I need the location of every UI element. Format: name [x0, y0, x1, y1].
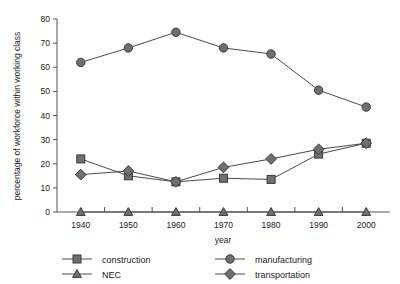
y-tick-label: 20 [41, 159, 51, 169]
marker-circle [172, 28, 180, 36]
marker-circle [226, 255, 234, 263]
marker-square [77, 155, 85, 163]
y-tick-label: 40 [41, 111, 51, 121]
legend-item-manufacturing[interactable]: manufacturing [215, 255, 312, 265]
y-tick-label: 50 [41, 86, 51, 96]
marker-circle [267, 50, 275, 58]
x-tick-label: 1940 [71, 220, 90, 230]
legend-label: NEC [102, 270, 122, 280]
marker-circle [314, 86, 322, 94]
x-tick-label: 1970 [214, 220, 233, 230]
marker-square [220, 174, 228, 182]
x-tick-label: 1960 [166, 220, 185, 230]
x-axis-title: year [215, 235, 232, 245]
y-tick-label: 10 [41, 183, 51, 193]
marker-circle [77, 58, 85, 66]
x-tick-label: 1950 [119, 220, 138, 230]
legend-item-construction[interactable]: construction [62, 255, 151, 265]
legend-label: construction [102, 255, 151, 265]
y-tick-label: 80 [41, 14, 51, 24]
y-tick-label: 30 [41, 135, 51, 145]
legend-item-transportation[interactable]: transportation [215, 269, 310, 280]
y-tick-label: 0 [45, 207, 50, 217]
marker-square [267, 175, 275, 183]
chart-canvas: percentage of workforce within working c… [0, 0, 400, 284]
marker-square [73, 255, 81, 263]
marker-circle [219, 44, 227, 52]
legend-label: transportation [255, 270, 310, 280]
chart-background [0, 0, 400, 284]
y-axis-tick-labels: 01020304050607080 [41, 14, 51, 217]
y-tick-label: 60 [41, 62, 51, 72]
x-tick-label: 2000 [357, 220, 376, 230]
legend-label: manufacturing [255, 255, 312, 265]
marker-circle [362, 103, 370, 111]
x-tick-label: 1990 [309, 220, 328, 230]
marker-circle [124, 44, 132, 52]
y-tick-label: 70 [41, 38, 51, 48]
y-axis-title: percentage of workforce within working c… [12, 32, 22, 201]
x-tick-label: 1980 [262, 220, 281, 230]
line-chart: percentage of workforce within working c… [0, 0, 400, 284]
